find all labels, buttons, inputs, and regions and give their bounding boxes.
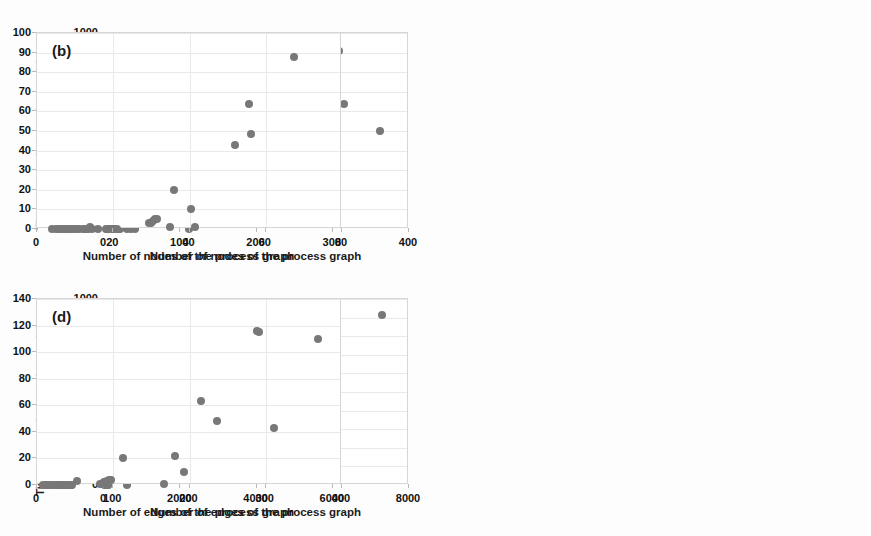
- gridline-horizontal: [37, 92, 340, 93]
- tickmark-y: [32, 457, 36, 458]
- gridline-horizontal: [37, 170, 340, 171]
- panel-b-xtick-20: 20: [106, 236, 118, 248]
- tickmark-x: [341, 228, 342, 232]
- panel-b-ytick-50: 50: [0, 124, 31, 136]
- chart-panel-b: Number of nodes of the process graph (b)…: [0, 0, 431, 268]
- chart-panel-d: Number of edges of the process graph (d)…: [0, 268, 431, 536]
- panel-b-ytick-80: 80: [0, 65, 31, 77]
- gridline-horizontal: [37, 458, 340, 459]
- panel-b-ytick-100: 100: [0, 26, 31, 38]
- tickmark-y: [32, 71, 36, 72]
- data-point: [213, 417, 221, 425]
- panel-d-ytick-100: 100: [0, 345, 31, 357]
- panel-d-xtick-200: 200: [179, 492, 197, 504]
- panel-d-xtick-400: 400: [332, 492, 350, 504]
- panel-b-ytick-70: 70: [0, 85, 31, 97]
- data-point: [153, 215, 161, 223]
- tickmark-x: [112, 228, 113, 232]
- gridline-horizontal: [37, 190, 340, 191]
- tickmark-y: [32, 52, 36, 53]
- data-point: [247, 130, 255, 138]
- gridline-vertical: [113, 33, 114, 227]
- tickmark-x: [341, 484, 342, 488]
- tickmark-y: [32, 189, 36, 190]
- tickmark-y: [32, 298, 36, 299]
- data-point: [231, 141, 239, 149]
- panel-b-ytick-60: 60: [0, 104, 31, 116]
- panel-d-ytick-0: 0: [0, 478, 31, 490]
- data-point: [270, 424, 278, 432]
- data-point: [290, 53, 298, 61]
- panel-b-ytick-10: 10: [0, 202, 31, 214]
- gridline-horizontal: [37, 299, 340, 300]
- tickmark-y: [32, 110, 36, 111]
- data-point: [255, 328, 263, 336]
- gridline-horizontal: [37, 72, 340, 73]
- data-point: [314, 335, 322, 343]
- data-point: [166, 223, 174, 231]
- gridline-horizontal: [37, 405, 340, 406]
- gridline-horizontal: [37, 151, 340, 152]
- gridline-horizontal: [37, 352, 340, 353]
- panel-d-ytick-140: 140: [0, 292, 31, 304]
- figure-root: Time contraction tree (seconds) Number o…: [0, 0, 871, 536]
- panel-d-xlabel: Number of edges of the process graph: [36, 506, 341, 518]
- gridline-vertical: [113, 299, 114, 483]
- panel-b-ytick-30: 30: [0, 163, 31, 175]
- tickmark-y: [32, 169, 36, 170]
- panel-b-ytick-90: 90: [0, 46, 31, 58]
- panel-b-xtick-60: 60: [259, 236, 271, 248]
- gridline-vertical: [190, 33, 191, 227]
- data-point: [245, 100, 253, 108]
- tickmark-y: [32, 431, 36, 432]
- panel-b-tag: (b): [52, 42, 71, 59]
- panel-b-plot-area: [36, 32, 341, 228]
- data-point: [197, 397, 205, 405]
- data-point: [171, 452, 179, 460]
- gridline-horizontal: [37, 379, 340, 380]
- tickmark-y: [32, 91, 36, 92]
- panel-d-ytick-20: 20: [0, 451, 31, 463]
- tickmark-y: [32, 32, 36, 33]
- tickmark-y: [32, 404, 36, 405]
- panel-d-plot-area: [36, 298, 341, 484]
- panel-d-ytick-40: 40: [0, 425, 31, 437]
- data-point: [180, 468, 188, 476]
- panel-b-xtick-0: 0: [33, 236, 39, 248]
- tickmark-y: [32, 130, 36, 131]
- tickmark-y: [32, 351, 36, 352]
- panel-d-ytick-80: 80: [0, 372, 31, 384]
- gridline-vertical: [266, 33, 267, 227]
- data-point: [160, 480, 168, 488]
- gridline-horizontal: [37, 432, 340, 433]
- gridline-horizontal: [37, 111, 340, 112]
- tickmark-y: [32, 208, 36, 209]
- tickmark-x: [112, 484, 113, 488]
- tickmark-y: [32, 150, 36, 151]
- data-point: [119, 454, 127, 462]
- panel-d-xtick-300: 300: [256, 492, 274, 504]
- tickmark-y: [32, 378, 36, 379]
- tickmark-x: [189, 228, 190, 232]
- gridline-horizontal: [37, 326, 340, 327]
- data-point: [107, 476, 115, 484]
- data-point: [187, 205, 195, 213]
- panel-b-ytick-20: 20: [0, 183, 31, 195]
- data-point: [170, 186, 178, 194]
- data-point: [73, 477, 81, 485]
- tickmark-x: [265, 228, 266, 232]
- panel-b-ytick-0: 0: [0, 222, 31, 234]
- data-point: [191, 223, 199, 231]
- data-point: [113, 225, 121, 233]
- panel-b-xtick-80: 80: [335, 236, 347, 248]
- gridline-vertical: [266, 299, 267, 483]
- tickmark-x: [36, 484, 37, 488]
- panel-b-xtick-40: 40: [182, 236, 194, 248]
- panel-d-ytick-120: 120: [0, 319, 31, 331]
- data-point: [94, 225, 102, 233]
- panel-d-xtick-0: 0: [33, 492, 39, 504]
- tickmark-x: [36, 228, 37, 232]
- tickmark-y: [32, 325, 36, 326]
- gridline-vertical: [190, 299, 191, 483]
- panel-d-ytick-60: 60: [0, 398, 31, 410]
